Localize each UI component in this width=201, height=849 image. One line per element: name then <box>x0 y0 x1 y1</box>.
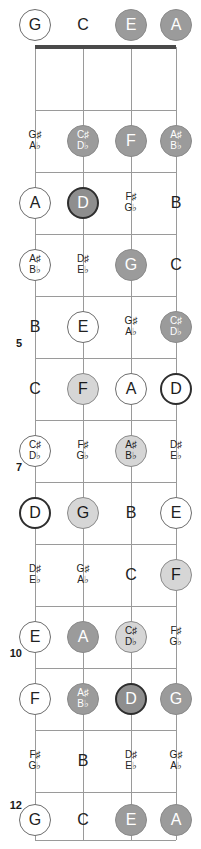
note-marker[interactable]: C♯D♭ <box>115 621 147 653</box>
note-label: C <box>77 17 89 33</box>
note-marker[interactable]: D♯E♭ <box>160 435 192 467</box>
note-marker[interactable]: A♯B♭ <box>67 683 99 715</box>
note-marker[interactable]: G <box>67 497 99 529</box>
note-marker[interactable]: C <box>67 804 99 836</box>
note-label: D <box>125 691 137 707</box>
note-label: B <box>30 319 41 335</box>
fret-line-6 <box>35 420 176 421</box>
note-marker[interactable]: B <box>67 745 99 777</box>
note-marker[interactable]: C <box>67 9 99 41</box>
note-marker[interactable]: G♯A♭ <box>160 745 192 777</box>
note-label-flat: G♭ <box>77 451 90 462</box>
note-label: A <box>78 629 89 645</box>
note-marker[interactable]: G♯A♭ <box>19 125 51 157</box>
note-marker[interactable]: C <box>19 373 51 405</box>
note-label-flat: A♭ <box>170 761 182 772</box>
note-label: B <box>171 195 182 211</box>
note-marker[interactable]: F <box>160 559 192 591</box>
note-label-flat: G♭ <box>125 203 138 214</box>
note-marker[interactable]: G♯A♭ <box>115 311 147 343</box>
note-marker[interactable]: G <box>160 683 192 715</box>
note-label: F <box>78 381 88 397</box>
note-marker[interactable]: G <box>19 9 51 41</box>
note-marker[interactable]: E <box>67 311 99 343</box>
note-marker[interactable]: C <box>160 249 192 281</box>
note-marker[interactable]: G <box>19 804 51 836</box>
fret-line-4 <box>35 296 176 297</box>
note-label-flat: A♭ <box>77 575 89 586</box>
note-marker[interactable]: D <box>115 683 147 715</box>
fret-line-8 <box>35 544 176 545</box>
note-label: E <box>171 505 182 521</box>
note-marker[interactable]: A <box>67 621 99 653</box>
fret-line-2 <box>35 172 176 173</box>
fret-line-end <box>35 840 176 841</box>
note-label-flat: E♭ <box>77 265 89 276</box>
note-label: E <box>126 812 137 828</box>
note-marker[interactable]: F♯G♭ <box>19 745 51 777</box>
note-marker[interactable]: F♯G♭ <box>115 187 147 219</box>
note-marker[interactable]: C♯D♭ <box>160 311 192 343</box>
note-label: A <box>30 195 41 211</box>
note-label: E <box>30 629 41 645</box>
note-marker[interactable]: D <box>19 497 51 529</box>
fret-number-7: 7 <box>0 461 22 473</box>
note-marker[interactable]: D <box>160 373 192 405</box>
note-marker[interactable]: C♯D♭ <box>67 125 99 157</box>
note-marker[interactable]: E <box>115 9 147 41</box>
note-label-flat: D♭ <box>125 637 137 648</box>
note-label: F <box>126 133 136 149</box>
note-marker[interactable]: F <box>19 683 51 715</box>
note-label-flat: B♭ <box>29 265 41 276</box>
nut-line <box>35 45 176 49</box>
note-marker[interactable]: D♯E♭ <box>67 249 99 281</box>
fret-line-1 <box>35 110 176 111</box>
note-marker[interactable]: F♯G♭ <box>67 435 99 467</box>
note-label-flat: A♭ <box>125 327 137 338</box>
note-label: G <box>29 17 41 33</box>
fret-number-12: 12 <box>0 799 22 811</box>
note-marker[interactable]: B <box>115 497 147 529</box>
note-marker[interactable]: F♯G♭ <box>160 621 192 653</box>
note-marker[interactable]: A <box>160 804 192 836</box>
note-marker[interactable]: A <box>19 187 51 219</box>
note-marker[interactable]: D♯E♭ <box>115 745 147 777</box>
note-label: C <box>77 812 89 828</box>
fret-line-9 <box>35 606 176 607</box>
note-marker[interactable]: F <box>67 373 99 405</box>
note-marker[interactable]: D♯E♭ <box>19 559 51 591</box>
note-label-flat: G♭ <box>170 637 183 648</box>
note-label-flat: D♭ <box>29 451 41 462</box>
note-marker[interactable]: G♯A♭ <box>67 559 99 591</box>
note-label: G <box>125 257 137 273</box>
note-label-flat: E♭ <box>29 575 41 586</box>
note-marker[interactable]: A♯B♭ <box>19 249 51 281</box>
note-marker[interactable]: C♯D♭ <box>19 435 51 467</box>
note-label: B <box>126 505 137 521</box>
fret-number-5: 5 <box>0 337 22 349</box>
note-marker[interactable]: B <box>160 187 192 219</box>
note-label-flat: G♭ <box>29 761 42 772</box>
note-label: F <box>171 567 181 583</box>
note-label: G <box>29 812 41 828</box>
fret-line-5 <box>35 358 176 359</box>
note-marker[interactable]: C <box>115 559 147 591</box>
note-label-flat: B♭ <box>170 141 182 152</box>
note-marker[interactable]: B <box>19 311 51 343</box>
note-marker[interactable]: G <box>115 249 147 281</box>
note-marker[interactable]: E <box>19 621 51 653</box>
note-label-flat: D♭ <box>170 327 182 338</box>
fret-line-7 <box>35 482 176 483</box>
fret-number-10: 10 <box>0 647 22 659</box>
note-marker[interactable]: A♯B♭ <box>160 125 192 157</box>
note-marker[interactable]: A <box>160 9 192 41</box>
note-label: A <box>171 17 182 33</box>
note-marker[interactable]: A <box>115 373 147 405</box>
note-marker[interactable]: F <box>115 125 147 157</box>
note-marker[interactable]: E <box>115 804 147 836</box>
note-marker[interactable]: E <box>160 497 192 529</box>
note-marker[interactable]: D <box>67 187 99 219</box>
note-label: B <box>78 753 89 769</box>
fretboard-diagram: 571012 GCEAG♯A♭C♯D♭FA♯B♭ADF♯G♭BA♯B♭D♯E♭G… <box>0 0 201 849</box>
note-marker[interactable]: A♯B♭ <box>115 435 147 467</box>
